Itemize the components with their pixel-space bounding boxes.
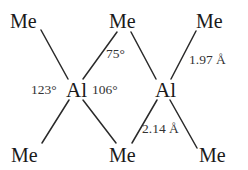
label-bridge-angle: 75° <box>106 46 125 61</box>
atom-me-bottom-right: Me <box>199 144 226 166</box>
bond-al-left-me-bottom-left <box>42 100 69 143</box>
label-bridge-terminal-angle: 106° <box>92 82 118 97</box>
label-terminal-bond-length: 1.97 Å <box>189 52 226 67</box>
atom-me-top-right: Me <box>196 10 223 32</box>
bond-al-right-me-top-center <box>131 32 156 79</box>
atom-al-left: Al <box>66 78 87 102</box>
atom-me-top-left: Me <box>10 10 37 32</box>
al2me6-structure-diagram: Me Me Me Al Al Me Me Me 75° 123° 106° 1.… <box>0 0 248 170</box>
atom-al-right: Al <box>155 78 176 102</box>
bond-al-left-me-bottom-center <box>83 100 116 143</box>
atom-me-top-center: Me <box>109 10 136 32</box>
atom-me-bottom-center: Me <box>109 144 136 166</box>
bond-al-left-me-top-left <box>41 30 68 79</box>
atom-me-bottom-left: Me <box>11 144 38 166</box>
label-bridge-bond-length: 2.14 Å <box>142 121 179 136</box>
label-terminal-angle: 123° <box>31 82 57 97</box>
